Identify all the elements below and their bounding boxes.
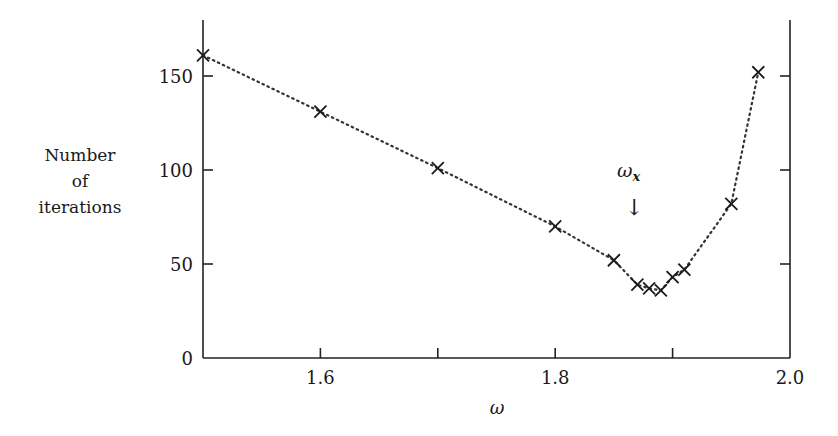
data-point-x-marker-icon xyxy=(314,106,326,118)
y-tick-label: 0 xyxy=(182,348,193,369)
data-point-x-marker-icon xyxy=(432,162,444,174)
data-point-x-marker-icon xyxy=(667,271,679,283)
data-point-x-marker-icon xyxy=(643,282,655,294)
chart: Number of iterations 0501001501.61.82.0 … xyxy=(0,0,838,436)
y-tick-label: 100 xyxy=(159,160,193,181)
data-point-x-marker-icon xyxy=(678,264,690,276)
data-point-x-marker-icon xyxy=(631,279,643,291)
annotation-arrow-icon: ↓ xyxy=(625,195,643,220)
series-line xyxy=(203,55,758,290)
plot-area: 0501001501.61.82.0 ωx ↓ ω xyxy=(0,0,838,436)
axes: 0501001501.61.82.0 xyxy=(159,20,805,388)
x-tick-label: 1.8 xyxy=(541,367,570,388)
annotation-label: ωx xyxy=(617,159,641,184)
x-axis-label: ω xyxy=(490,397,505,418)
x-tick-label: 2.0 xyxy=(776,367,805,388)
data-point-x-marker-icon xyxy=(608,254,620,266)
data-point-x-marker-icon xyxy=(549,220,561,232)
y-tick-label: 150 xyxy=(159,66,193,87)
annotation-omega-x: ωx ↓ xyxy=(617,159,643,220)
data-series xyxy=(197,49,764,296)
x-tick-label: 1.6 xyxy=(306,367,335,388)
y-tick-label: 50 xyxy=(170,254,193,275)
